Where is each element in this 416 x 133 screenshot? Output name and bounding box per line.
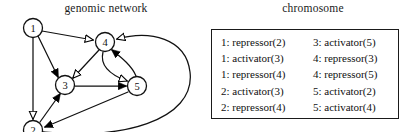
gene-rule-item: 2: repressor(4)	[221, 99, 313, 115]
genomic-network-panel: genomic network	[0, 0, 208, 132]
network-node-label-1: 1	[30, 23, 35, 34]
edge-4-to-5	[102, 52, 127, 81]
gene-rule-item: 4: repressor(5)	[313, 66, 397, 82]
gene-rule-column-left: 1: repressor(2) 1: activator(3) 1: repre…	[221, 34, 313, 115]
network-node-label-2: 2	[30, 125, 35, 132]
edge-2-to-3	[40, 94, 60, 122]
gene-rule-item: 1: repressor(4)	[221, 66, 313, 82]
chromosome-panel: chromosome 1: repressor(2) 1: activator(…	[208, 0, 416, 132]
chromosome-title: chromosome	[208, 1, 416, 15]
edge-5-to-4	[112, 50, 136, 76]
edge-1-to-3	[38, 36, 58, 77]
network-nodes: 12345	[24, 19, 147, 133]
network-node-label-4: 4	[102, 37, 108, 48]
gene-rule-item: 2: activator(3)	[221, 83, 313, 99]
gene-rule-item: 3: activator(5)	[313, 34, 397, 50]
network-node-label-3: 3	[62, 80, 67, 91]
gene-rule-item: 1: activator(3)	[221, 50, 313, 66]
edge-1-to-4	[42, 31, 93, 40]
edge-4-to-3	[73, 50, 99, 78]
genomic-network-graph: 12345	[0, 0, 208, 132]
gene-rule-item: 5: activator(2)	[313, 83, 397, 99]
gene-rule-column-right: 3: activator(5) 4: repressor(3) 4: repre…	[313, 34, 397, 115]
network-node-label-5: 5	[134, 81, 139, 92]
figure-root: genomic network	[0, 0, 416, 132]
gene-rule-item: 1: repressor(2)	[221, 34, 313, 50]
gene-rule-item: 5: activator(4)	[313, 99, 397, 115]
gene-rule-item: 4: repressor(3)	[313, 50, 397, 66]
gene-rule-list: 1: repressor(2) 1: activator(3) 1: repre…	[221, 34, 397, 115]
chromosome-box: 1: repressor(2) 1: activator(3) 1: repre…	[211, 29, 399, 119]
